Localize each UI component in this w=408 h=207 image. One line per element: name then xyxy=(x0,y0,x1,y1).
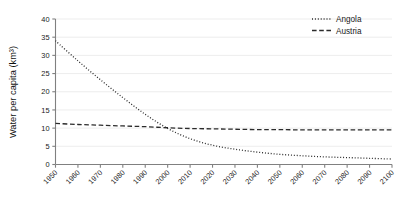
x-tick-label: 2070 xyxy=(311,168,329,186)
y-tick-label: 30 xyxy=(41,51,49,60)
x-tick-label: 2060 xyxy=(288,168,306,186)
y-axis-ticks: 0510152025303540 xyxy=(41,15,55,170)
gridlines xyxy=(56,19,393,146)
y-tick-label: 15 xyxy=(41,106,49,115)
x-tick-label: 2000 xyxy=(154,168,172,186)
x-tick-label: 1980 xyxy=(109,168,127,186)
x-tick-label: 2080 xyxy=(333,168,351,186)
x-tick-label: 2040 xyxy=(243,168,261,186)
y-tick-label: 25 xyxy=(41,69,49,78)
x-axis-ticks: 1950196019701980199020002010202020302040… xyxy=(41,165,395,187)
legend-label-angola: Angola xyxy=(336,15,362,24)
y-axis-title: Water per capita (km³) xyxy=(8,46,18,138)
legend-label-austria: Austria xyxy=(336,27,362,36)
y-tick-label: 5 xyxy=(45,142,49,151)
x-tick-label: 2100 xyxy=(378,168,396,186)
y-tick-label: 40 xyxy=(41,15,49,24)
y-tick-label: 35 xyxy=(41,33,49,42)
series-line-austria xyxy=(56,123,393,130)
y-tick-label: 20 xyxy=(41,87,49,96)
y-tick-label: 0 xyxy=(45,160,49,169)
series-line-angola xyxy=(56,41,393,159)
y-tick-label: 10 xyxy=(41,124,49,133)
x-tick-label: 2010 xyxy=(176,168,194,186)
x-tick-label: 1960 xyxy=(64,168,82,186)
x-tick-label: 1970 xyxy=(86,168,104,186)
chart-legend: AngolaAustria xyxy=(312,15,362,36)
x-tick-label: 2050 xyxy=(266,168,284,186)
chart-figure: 0510152025303540 19501960197019801990200… xyxy=(0,0,408,207)
x-tick-label: 1990 xyxy=(131,168,149,186)
x-tick-label: 2030 xyxy=(221,168,239,186)
x-tick-label: 2090 xyxy=(355,168,373,186)
line-chart: 0510152025303540 19501960197019801990200… xyxy=(0,0,408,207)
x-tick-label: 1950 xyxy=(41,168,59,186)
x-tick-label: 2020 xyxy=(198,168,216,186)
data-series-group xyxy=(56,41,393,159)
